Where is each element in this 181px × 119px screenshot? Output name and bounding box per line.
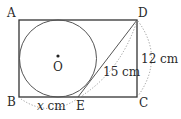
circle-o: [20, 20, 97, 97]
label-c: C: [139, 96, 148, 110]
geometry-figure: A B C D E O 15 cm 12 cm x cm: [0, 0, 181, 119]
label-d: D: [138, 6, 148, 20]
center-point-o: [56, 54, 59, 57]
label-b: B: [7, 95, 16, 109]
label-o: O: [53, 60, 63, 74]
label-be-unit: cm: [44, 99, 67, 113]
label-de-length: 15 cm: [103, 65, 141, 79]
rectangle-abcd: [19, 20, 137, 97]
label-dc-length: 12 cm: [141, 52, 179, 66]
label-be-length: x cm: [37, 99, 66, 113]
arc-ed: [80, 21, 137, 97]
segment-de: [78, 20, 137, 97]
label-a: A: [6, 6, 16, 20]
label-e: E: [76, 99, 85, 113]
